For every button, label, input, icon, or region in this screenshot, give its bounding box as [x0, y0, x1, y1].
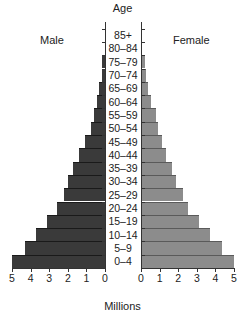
y-tick — [102, 202, 105, 203]
y-tick — [142, 42, 145, 43]
age-group-label: 5–9 — [105, 242, 141, 255]
male-x-tick-label: 2 — [61, 272, 75, 284]
female-x-tick-label: 4 — [208, 272, 222, 284]
male-x-tick-label: 1 — [79, 272, 93, 284]
male-x-tick-label: 0 — [98, 272, 112, 284]
male-bar — [25, 241, 105, 254]
age-group-label: 35–39 — [105, 162, 141, 175]
male-x-tick-label: 4 — [24, 272, 38, 284]
female-bar — [141, 215, 199, 228]
y-tick — [142, 215, 145, 216]
age-group-label: 30–34 — [105, 175, 141, 188]
female-bar — [141, 241, 222, 254]
male-bar — [68, 175, 105, 188]
y-tick — [142, 255, 145, 256]
female-bar — [141, 162, 172, 175]
male-bar — [97, 95, 105, 108]
female-label: Female — [173, 34, 210, 46]
y-tick — [102, 215, 105, 216]
y-tick — [102, 188, 105, 189]
y-tick — [102, 55, 105, 56]
female-bar — [141, 255, 234, 268]
y-tick — [102, 69, 105, 70]
age-group-label: 85+ — [105, 29, 141, 42]
age-group-label: 25–29 — [105, 189, 141, 202]
x-axis-label: Millions — [0, 300, 245, 312]
age-group-label: 20–24 — [105, 202, 141, 215]
y-tick — [142, 148, 145, 149]
y-tick — [142, 228, 145, 229]
y-tick — [102, 95, 105, 96]
male-label: Male — [40, 34, 64, 46]
male-bar — [91, 122, 105, 135]
y-tick — [142, 95, 145, 96]
y-tick — [142, 175, 145, 176]
age-group-label: 55–59 — [105, 109, 141, 122]
age-group-label: 50–54 — [105, 122, 141, 135]
y-tick — [142, 188, 145, 189]
y-tick — [102, 122, 105, 123]
y-tick — [142, 55, 145, 56]
y-tick — [142, 162, 145, 163]
male-x-tick-label: 3 — [42, 272, 56, 284]
age-group-label: 65–69 — [105, 82, 141, 95]
y-tick — [102, 228, 105, 229]
male-bar — [85, 135, 105, 148]
female-x-axis — [141, 268, 235, 269]
y-tick — [102, 135, 105, 136]
y-tick — [102, 162, 105, 163]
age-group-label: 70–74 — [105, 69, 141, 82]
y-tick — [102, 175, 105, 176]
female-x-tick-label: 2 — [171, 272, 185, 284]
chart-title: Age — [0, 2, 245, 14]
male-bar — [57, 202, 105, 215]
male-x-tick-label: 5 — [5, 272, 19, 284]
age-group-label: 75–79 — [105, 56, 141, 69]
y-tick — [142, 82, 145, 83]
age-group-label: 15–19 — [105, 215, 141, 228]
male-bar — [36, 228, 105, 241]
female-x-tick-label: 1 — [153, 272, 167, 284]
female-bar — [141, 108, 156, 121]
y-tick — [102, 82, 105, 83]
female-x-tick-label: 3 — [190, 272, 204, 284]
male-bar — [64, 188, 105, 201]
y-tick — [142, 29, 145, 30]
female-bar — [141, 228, 210, 241]
y-tick — [142, 135, 145, 136]
y-tick — [142, 122, 145, 123]
female-bar — [141, 175, 176, 188]
male-bar — [47, 215, 105, 228]
female-bar — [141, 95, 151, 108]
male-bar — [12, 255, 105, 268]
female-bar — [141, 148, 166, 161]
age-group-label: 80–84 — [105, 42, 141, 55]
y-tick — [102, 29, 105, 30]
female-bar — [141, 135, 162, 148]
female-bar — [141, 202, 188, 215]
male-x-axis — [12, 268, 106, 269]
male-y-axis — [105, 22, 106, 268]
male-bar — [79, 148, 105, 161]
y-tick — [142, 202, 145, 203]
male-bar — [73, 162, 105, 175]
y-tick — [102, 255, 105, 256]
y-tick — [102, 108, 105, 109]
female-bar — [141, 122, 158, 135]
age-group-label: 10–14 — [105, 229, 141, 242]
y-tick — [142, 108, 145, 109]
y-tick — [102, 148, 105, 149]
age-group-label: 0–4 — [105, 255, 141, 268]
y-tick — [102, 241, 105, 242]
female-y-axis — [141, 22, 142, 268]
age-group-label: 40–44 — [105, 149, 141, 162]
age-group-label: 60–64 — [105, 96, 141, 109]
y-tick — [142, 241, 145, 242]
female-x-tick-label: 5 — [227, 272, 241, 284]
y-tick — [102, 42, 105, 43]
female-bar — [141, 82, 148, 95]
y-tick — [142, 69, 145, 70]
female-bar — [141, 188, 183, 201]
female-x-tick-label: 0 — [134, 272, 148, 284]
male-bar — [94, 108, 105, 121]
